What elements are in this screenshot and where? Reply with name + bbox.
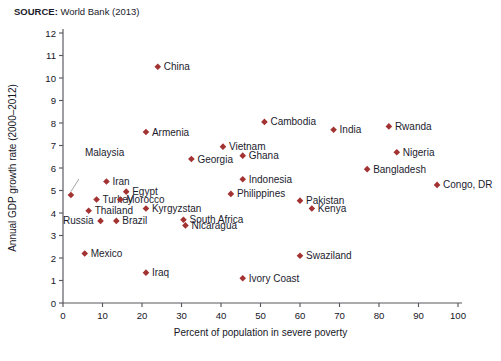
data-point-marker xyxy=(143,205,150,212)
data-point-label: Nicaragua xyxy=(191,220,237,231)
y-axis-tick-label: 6 xyxy=(51,163,56,174)
data-point-marker xyxy=(188,156,195,163)
y-axis-tick-label: 2 xyxy=(51,253,56,264)
data-point-marker xyxy=(180,216,187,223)
data-point-marker xyxy=(155,63,162,70)
x-axis-tick-label: 20 xyxy=(137,310,148,321)
data-point-marker xyxy=(113,218,120,225)
data-point-marker xyxy=(386,123,393,130)
data-point-label: Iran xyxy=(112,176,129,187)
data-point-marker xyxy=(220,143,227,150)
data-point-marker xyxy=(261,119,268,126)
data-point-label: Indonesia xyxy=(249,174,293,185)
data-point-marker xyxy=(364,166,371,173)
y-axis-tick-label: 10 xyxy=(45,73,56,84)
y-axis-tick-label: 5 xyxy=(51,185,56,196)
data-point-marker xyxy=(239,152,246,159)
data-point-marker xyxy=(93,196,100,203)
y-axis-tick-label: 9 xyxy=(51,95,56,106)
x-axis-tick-label: 50 xyxy=(255,310,266,321)
data-point-marker xyxy=(393,149,400,156)
y-axis-tick-label: 1 xyxy=(51,275,56,286)
data-point-label: Ivory Coast xyxy=(249,273,300,284)
data-point-label: Kyrgyzstan xyxy=(152,203,201,214)
data-point-label: Kenya xyxy=(318,203,347,214)
data-point-label: Malaysia xyxy=(85,147,125,158)
x-axis-tick-label: 60 xyxy=(295,310,306,321)
data-point-label: Mexico xyxy=(91,248,123,259)
data-point-label: Iraq xyxy=(152,267,169,278)
data-point-marker xyxy=(85,207,92,214)
data-point-marker xyxy=(143,269,150,276)
data-point-marker xyxy=(309,205,316,212)
y-axis-tick-label: 8 xyxy=(51,118,56,129)
data-point-marker xyxy=(239,275,246,282)
y-axis-title: Annual GDP growth rate (2000–2012) xyxy=(7,84,18,252)
data-point-marker xyxy=(182,222,189,229)
data-point-label: China xyxy=(164,61,191,72)
data-point-label: Cambodia xyxy=(270,116,316,127)
data-point-label: Bangladesh xyxy=(373,164,426,175)
y-axis-tick-label: 11 xyxy=(46,50,56,61)
scatter-chart: 01234567891011120102030405060708090100Pe… xyxy=(0,0,501,361)
data-point-label: Philippines xyxy=(237,188,285,199)
data-point-marker xyxy=(297,252,304,259)
data-point-marker xyxy=(143,129,150,136)
y-axis-tick-label: 7 xyxy=(51,140,56,151)
data-point-label: India xyxy=(340,124,362,135)
data-point-label: Congo, DR xyxy=(443,179,492,190)
data-point-marker xyxy=(228,191,235,198)
data-point-label: Armenia xyxy=(152,127,190,138)
x-axis-tick-label: 10 xyxy=(97,310,108,321)
chart-canvas: 01234567891011120102030405060708090100Pe… xyxy=(0,0,501,361)
x-axis-tick-label: 40 xyxy=(216,310,227,321)
data-point-marker xyxy=(239,176,246,183)
data-point-marker xyxy=(103,178,110,185)
x-axis-tick-label: 90 xyxy=(413,310,424,321)
data-point-marker xyxy=(97,218,104,225)
x-axis-title: Percent of population in severe poverty xyxy=(174,327,347,338)
label-leader-line xyxy=(71,179,79,192)
y-axis-tick-label: 0 xyxy=(51,298,56,309)
y-axis-tick-label: 3 xyxy=(51,230,56,241)
x-axis-tick-label: 70 xyxy=(334,310,345,321)
data-point-label: Nigeria xyxy=(403,147,435,158)
x-axis-tick-label: 0 xyxy=(60,310,65,321)
y-axis-tick-label: 12 xyxy=(45,28,56,39)
data-point-label: Brazil xyxy=(122,215,147,226)
data-point-label: Georgia xyxy=(197,154,233,165)
x-axis-tick-label: 100 xyxy=(450,310,466,321)
data-point-label: Russia xyxy=(63,215,94,226)
data-point-marker xyxy=(434,182,441,189)
data-point-marker xyxy=(297,197,304,204)
data-point-marker xyxy=(330,126,337,133)
data-point-label: Ghana xyxy=(249,150,279,161)
y-axis-tick-label: 4 xyxy=(51,208,57,219)
data-point-marker xyxy=(68,192,75,199)
data-point-label: Rwanda xyxy=(395,121,432,132)
data-point-marker xyxy=(81,250,88,257)
x-axis-tick-label: 30 xyxy=(176,310,187,321)
data-point-label: Swaziland xyxy=(306,250,352,261)
x-axis-tick-label: 80 xyxy=(374,310,385,321)
